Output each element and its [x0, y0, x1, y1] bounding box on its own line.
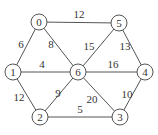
edge-weight-label: 20 — [87, 93, 99, 105]
edge-weight-label: 12 — [14, 91, 25, 103]
edge-weight-label: 4 — [39, 58, 45, 70]
edge-weight-label: 9 — [55, 87, 61, 99]
node-5: 5 — [111, 15, 127, 31]
node-0: 0 — [31, 14, 47, 30]
edge-0-6 — [39, 22, 78, 72]
edge-weight-label: 5 — [77, 103, 83, 115]
node-label: 0 — [36, 16, 42, 28]
edge-0-5 — [39, 22, 119, 23]
edge-weight-label: 8 — [48, 38, 54, 50]
node-label: 1 — [10, 66, 16, 78]
node-2: 2 — [32, 109, 48, 125]
node-6: 6 — [70, 64, 86, 80]
edge-weight-label: 16 — [108, 58, 120, 70]
edge-weight-label: 13 — [120, 40, 132, 52]
node-label: 2 — [37, 111, 43, 123]
node-label: 6 — [75, 66, 81, 78]
edge-6-3 — [78, 72, 120, 117]
graph-svg: 1268151341612920105 0516423 — [0, 0, 158, 135]
node-label: 5 — [116, 17, 122, 29]
edge-weight-label: 15 — [84, 40, 96, 52]
edge-weight-label: 12 — [74, 8, 85, 20]
graph-diagram: 1268151341612920105 0516423 — [0, 0, 158, 135]
edge-weight-label: 6 — [18, 38, 24, 50]
node-4: 4 — [137, 64, 153, 80]
node-label: 3 — [117, 111, 123, 123]
node-1: 1 — [5, 64, 21, 80]
node-label: 4 — [142, 66, 148, 78]
edge-weight-label: 10 — [122, 88, 134, 100]
node-3: 3 — [112, 109, 128, 125]
